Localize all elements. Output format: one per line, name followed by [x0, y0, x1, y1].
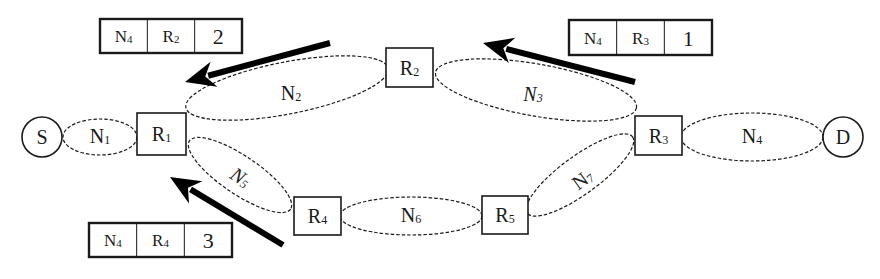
network-n5: N5: [179, 125, 301, 225]
destination-node: D: [823, 117, 863, 157]
network-label: N6: [401, 204, 421, 226]
hop-count-cell: 3: [203, 228, 214, 253]
hop-count-cell: 1: [683, 26, 694, 51]
router-r2: R2: [386, 48, 433, 87]
router-r1: R1: [137, 113, 186, 155]
router-r3: R3: [635, 116, 682, 155]
router-r5: R5: [482, 196, 528, 234]
network-label: N4: [742, 125, 762, 147]
table-r4: N4R43: [89, 223, 232, 257]
network-label: N1: [90, 125, 110, 147]
network-label: N3: [522, 83, 542, 105]
node-label: S: [36, 126, 47, 148]
diagram-svg: N1N2N3N4N5N6N7 SDR1R2R3R4R5 N4R22N4R31N4…: [0, 0, 880, 279]
network-n6: N6: [340, 197, 482, 235]
hop-count-cell: 2: [213, 24, 224, 49]
table-r2: N4R22: [100, 19, 242, 53]
network-n1: N1: [63, 119, 137, 155]
node-label: D: [836, 126, 850, 148]
network-n7: N7: [516, 121, 644, 228]
network-routing-diagram: N1N2N3N4N5N6N7 SDR1R2R3R4R5 N4R22N4R31N4…: [0, 0, 880, 279]
network-label: N5: [226, 162, 255, 192]
router-r4: R4: [294, 197, 341, 235]
network-n4: N4: [681, 113, 823, 161]
nodes-layer: SDR1R2R3R4R5: [22, 48, 863, 235]
table-r3: N4R31: [569, 20, 712, 55]
source-node: S: [22, 117, 62, 157]
network-label: N2: [281, 82, 301, 104]
